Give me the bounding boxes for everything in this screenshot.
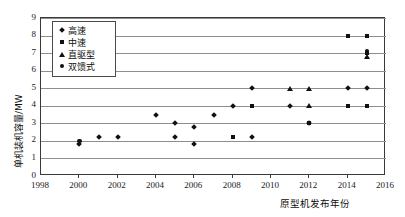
x-tick-mark [155,175,156,178]
legend-item-直驱型[interactable]: 直驱型 [56,48,111,60]
y-tick-label: 5 [22,83,36,92]
data-point-diamond [364,85,370,91]
gridline [41,88,386,89]
legend-item-label: 双馈式 [68,60,95,73]
y-tick-label: 6 [22,65,36,74]
data-point-triangle [306,86,312,91]
x-tick-label: 1998 [24,181,56,190]
x-tick-label: 2004 [139,181,171,190]
x-tick-mark [117,175,118,178]
data-point-square [346,34,350,38]
legend-item-高速[interactable]: 高速 [56,24,111,36]
scatter-chart: 单机装机容量/MW 9876543210 1998200020022004200… [0,0,405,217]
y-tick-label: 2 [22,135,36,144]
y-tick-label: 3 [22,118,36,127]
data-point-diamond [96,135,102,141]
x-tick-label: 2016 [369,181,401,190]
data-point-diamond [153,112,159,118]
data-point-triangle [306,103,312,108]
data-point-diamond [191,124,197,130]
y-tick-label: 4 [22,100,36,109]
gridline [41,158,386,159]
data-point-square [250,104,254,108]
data-point-triangle [364,54,370,59]
y-tick-label: 8 [22,30,36,39]
data-point-diamond [191,142,197,148]
x-tick-label: 2012 [292,181,324,190]
x-tick-mark [232,175,233,178]
data-point-diamond [287,103,293,109]
x-tick-label: 2000 [62,181,94,190]
gridline [41,18,386,19]
y-tick-label: 0 [22,171,36,180]
data-point-square [346,104,350,108]
x-tick-label: 2006 [177,181,209,190]
data-point-diamond [249,85,255,91]
data-point-square [231,135,235,139]
data-point-circle [77,139,82,144]
data-point-diamond [172,135,178,141]
x-tick-label: 2010 [254,181,286,190]
diamond-marker-icon [56,28,67,32]
y-tick-label: 7 [22,48,36,57]
data-point-diamond [115,135,121,141]
data-point-triangle [287,86,293,91]
data-point-diamond [230,103,236,109]
x-tick-label: 2008 [216,181,248,190]
data-point-diamond [172,120,178,126]
x-tick-mark [78,175,79,178]
x-tick-mark [270,175,271,178]
x-tick-mark [193,175,194,178]
legend: 高速中速直驱型双馈式 [52,21,116,77]
square-marker-icon [56,40,67,44]
data-point-square [365,34,369,38]
data-point-square [307,121,311,125]
y-tick-label: 1 [22,153,36,162]
gridline [41,141,386,142]
x-axis-title: 原型机发布年份 [280,196,350,210]
x-tick-mark [347,175,348,178]
x-tick-mark [308,175,309,178]
data-point-diamond [211,112,217,118]
y-tick-label: 9 [22,13,36,22]
x-tick-label: 2014 [331,181,363,190]
legend-item-中速[interactable]: 中速 [56,36,111,48]
data-point-square [365,104,369,108]
gridline [41,123,386,124]
x-tick-label: 2002 [101,181,133,190]
data-point-diamond [249,135,255,141]
data-point-diamond [345,85,351,91]
triangle-marker-icon [56,52,67,57]
legend-item-双馈式[interactable]: 双馈式 [56,60,111,72]
data-point-circle [365,49,370,54]
gridline [41,106,386,107]
circle-marker-icon [56,64,67,68]
